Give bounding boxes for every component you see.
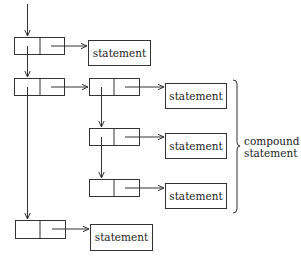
statement-label-3: statement: [165, 141, 227, 152]
compound-label-line-1: compound: [244, 136, 299, 148]
compound-brace: [233, 80, 240, 213]
statement-label-1: statement: [88, 48, 151, 59]
statement-label-4: statement: [165, 191, 227, 202]
statement-label-5: statement: [90, 232, 153, 243]
compound-statement-label: compound statement: [244, 136, 299, 159]
diagram-canvas: [0, 0, 301, 261]
compound-label-line-2: statement: [244, 148, 299, 160]
statement-label-2: statement: [165, 91, 227, 102]
